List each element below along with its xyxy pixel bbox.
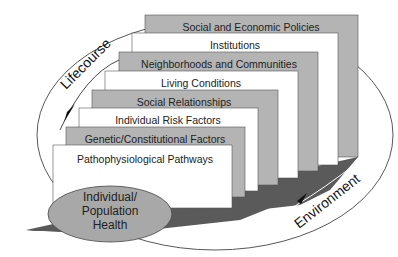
determinants-diagram: Social and Economic Policies Institution… <box>0 0 398 257</box>
center-label-line1: Individual/ <box>83 190 138 204</box>
layer-label: Pathophysiological Pathways <box>77 153 213 165</box>
center-label-line2: Population <box>82 204 139 218</box>
layer-label: Institutions <box>210 39 260 51</box>
layer-label: Neighborhoods and Communities <box>141 58 297 70</box>
layer-label: Individual Risk Factors <box>115 114 221 126</box>
center-label-line3: Health <box>93 218 128 232</box>
layer-label: Social Relationships <box>137 96 232 108</box>
arrowhead-icon <box>64 104 75 122</box>
individual-population-health-oval: Individual/ Population Health <box>48 186 172 242</box>
layer-label: Genetic/Constitutional Factors <box>85 133 226 145</box>
layer-label: Living Conditions <box>161 77 241 89</box>
layer-label: Social and Economic Policies <box>182 21 319 33</box>
